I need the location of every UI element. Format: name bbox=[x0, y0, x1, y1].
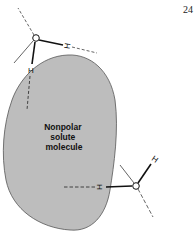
hydrogen-atom-label: H bbox=[63, 42, 73, 49]
hydrogen-atom-label: H bbox=[150, 154, 160, 165]
hydrogen-atom-label: H bbox=[28, 66, 34, 75]
hydrophobic-interaction-diagram: 24 Nonpolar solute molecule H H H bbox=[0, 0, 195, 233]
solute-label-line-1: Nonpolar bbox=[44, 122, 82, 132]
oxygen-atom bbox=[133, 183, 140, 190]
page-number: 24 bbox=[183, 4, 193, 15]
hydrogen-atom-label: H bbox=[95, 184, 104, 190]
oxygen-atom bbox=[33, 35, 40, 42]
solute-label-line-2: solute bbox=[50, 132, 75, 142]
solute-label-line-3: molecule bbox=[46, 142, 83, 152]
